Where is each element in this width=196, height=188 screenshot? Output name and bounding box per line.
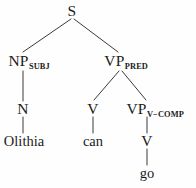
node-subscript-vp-vcomp: V−COMP xyxy=(147,110,184,119)
tree-edge-s-to-np-subj xyxy=(23,19,71,52)
node-label-vp-pred: VP xyxy=(104,52,124,69)
tree-node-v-modal: V xyxy=(87,101,98,117)
tree-leaf-go: go xyxy=(140,166,155,181)
tree-node-n: N xyxy=(17,101,28,117)
tree-edge-vp-pred-to-vp-vcomp xyxy=(122,71,146,100)
tree-edge-layer xyxy=(0,0,196,188)
syntax-tree-figure: S NPSUBJ VPPRED N V VPV−COMP V Olithia c… xyxy=(0,0,196,188)
node-label-np-subj: NP xyxy=(8,52,28,69)
node-subscript-np-subj: SUBJ xyxy=(29,62,50,71)
tree-leaf-olithia: Olithia xyxy=(4,134,44,149)
tree-edge-vp-pred-to-v xyxy=(94,71,119,100)
tree-node-vp-pred: VPPRED xyxy=(104,53,147,69)
tree-node-vp-vcomp: VPV−COMP xyxy=(126,101,183,117)
tree-edge-s-to-vp-pred xyxy=(74,19,118,52)
node-label-n: N xyxy=(17,100,28,117)
node-subscript-vp-pred: PRED xyxy=(125,62,148,71)
node-label-s: S xyxy=(68,2,77,19)
node-label-v-modal: V xyxy=(87,100,98,117)
tree-node-s: S xyxy=(68,3,77,19)
tree-leaf-can: can xyxy=(83,134,103,149)
tree-node-v-main: V xyxy=(141,133,152,149)
tree-node-np-subj: NPSUBJ xyxy=(8,53,49,69)
node-label-vp-vcomp: VP xyxy=(126,100,146,117)
node-label-v-main: V xyxy=(141,132,152,149)
